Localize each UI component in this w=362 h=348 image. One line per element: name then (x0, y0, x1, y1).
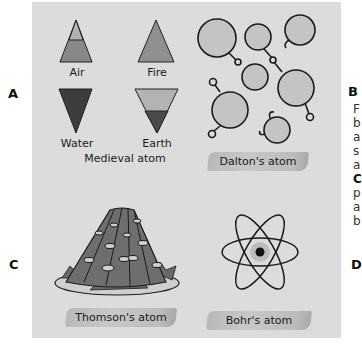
dalton-caption-banner: Dalton's atom (207, 152, 309, 171)
earth-label: Earth (137, 137, 177, 150)
water-triangle-icon (59, 89, 92, 133)
fire-triangle-icon (138, 20, 174, 62)
atom-models-illustration (0, 0, 362, 348)
panel-label-b: B (348, 84, 358, 99)
thomson-atom-caption: Thomson's atom (66, 308, 176, 327)
bohr-atom-caption: Bohr's atom (207, 311, 311, 330)
thomson-caption-banner: Thomson's atom (65, 308, 177, 327)
panel-label-a: A (8, 86, 18, 101)
dalton-atoms-icon (198, 15, 315, 143)
air-label: Air (62, 66, 92, 79)
panel-label-d: D (351, 257, 362, 272)
bohr-caption-banner: Bohr's atom (206, 311, 312, 330)
medieval-atom-caption: Medieval atom (80, 152, 170, 165)
water-label: Water (57, 137, 97, 150)
earth-triangle-icon (135, 89, 178, 133)
bohr-atom-icon (222, 209, 298, 296)
thomson-pudding-icon (55, 208, 179, 295)
side-text-b: F b a s a C p a b (353, 102, 362, 228)
dalton-atom-caption: Dalton's atom (208, 152, 308, 171)
fire-label: Fire (140, 66, 174, 79)
air-triangle-icon (60, 20, 92, 62)
panel-label-c: C (9, 257, 19, 272)
